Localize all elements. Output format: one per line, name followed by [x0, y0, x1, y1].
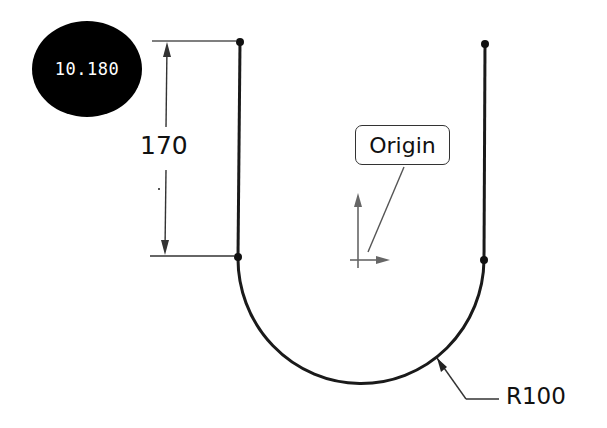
origin-label: Origin [369, 133, 436, 158]
badge-value: 10.180 [55, 59, 119, 79]
arrow-up-icon [163, 42, 171, 57]
endpoint-left-bottom[interactable] [234, 253, 242, 261]
value-badge: 10.180 [32, 21, 142, 117]
endpoint-right-top[interactable] [481, 40, 489, 48]
dimension-line-lower[interactable] [165, 170, 166, 250]
origin-leader-line [368, 167, 404, 252]
left-sketch-line[interactable] [238, 42, 240, 257]
arc-sketch-curve[interactable] [238, 257, 484, 384]
radius-dimension-label[interactable]: R100 [506, 383, 566, 409]
endpoint-left-top[interactable] [236, 38, 244, 46]
arrow-down-icon [161, 240, 169, 255]
endpoint-right-bottom[interactable] [480, 256, 488, 264]
origin-x-arrow-icon [376, 256, 390, 264]
origin-y-arrow-icon [354, 193, 362, 207]
right-sketch-line[interactable] [484, 44, 485, 260]
height-dimension-label[interactable]: 170 [140, 131, 188, 160]
origin-callout: Origin [355, 125, 450, 165]
stray-point [158, 188, 160, 190]
dimension-line-upper[interactable] [166, 46, 167, 127]
